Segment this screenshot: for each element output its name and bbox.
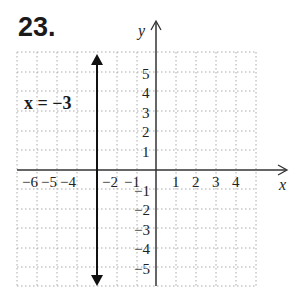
y-axis-label: y [136,22,146,40]
x-tick-label: −6 [22,174,38,190]
coordinate-plane: y x x = −3 −6 −5 −4 −2 −1 1 2 3 4 5 4 3 … [0,0,300,294]
y-tick-label: −3 [134,222,150,238]
x-tick-label: −2 [102,174,118,190]
equation-label: x = −3 [24,93,72,113]
x-axis-label: x [278,176,286,193]
line-bottom-arrow-icon [91,275,103,286]
y-tick-label: −1 [134,183,150,199]
y-tick-label: −4 [134,241,150,257]
y-tick-label: 1 [142,144,150,160]
y-tick-label: 2 [142,124,150,140]
x-tick-label: −4 [60,174,76,190]
x-tick-label: 3 [212,174,220,190]
line-top-arrow-icon [91,54,103,65]
x-tick-label: 2 [192,174,200,190]
y-tick-label: 4 [142,85,150,101]
y-tick-label: 5 [142,66,150,82]
y-tick-label: 3 [142,105,150,121]
y-tick-label: −5 [134,261,150,277]
x-tick-label: −5 [41,174,57,190]
y-tick-label: −2 [134,202,150,218]
x-tick-label: 1 [172,174,180,190]
x-tick-label: 4 [232,174,240,190]
